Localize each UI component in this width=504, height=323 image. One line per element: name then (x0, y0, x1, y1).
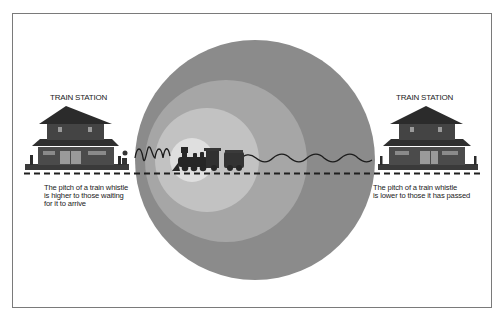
left-station-title: TRAIN STATION (50, 93, 107, 102)
right-station-title: TRAIN STATION (396, 93, 453, 102)
steam-locomotive-icon (172, 147, 244, 171)
doppler-diagram (0, 0, 504, 323)
left-station-caption: The pitch of a train whistle is higher t… (44, 184, 128, 209)
right-station-caption: The pitch of a train whistle is lower to… (373, 184, 470, 200)
caption-line: for it to arrive (44, 200, 128, 208)
right-station-building-icon (378, 106, 478, 170)
left-station-building-icon (25, 106, 129, 170)
caption-line: is lower to those it has passed (373, 192, 470, 200)
